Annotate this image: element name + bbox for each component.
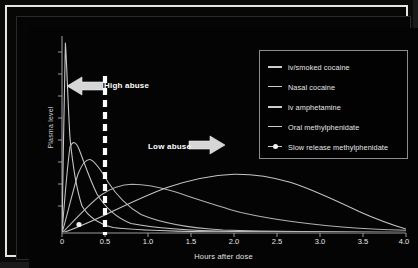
legend-item-label: Oral methylphenidate: [288, 123, 359, 132]
figure-outer-frame: 0 0.5 1.0 1.5 2.0 2.5 3.0 3.5 4.0 Plasma…: [5, 5, 408, 257]
x-tick-label-3-5: 3.5: [353, 237, 373, 246]
y-axis-ticks: [58, 52, 62, 206]
x-tick-label-4-0: 4.0: [394, 237, 414, 246]
y-axis-label: Plasma level: [47, 93, 54, 163]
slow-release-marker-dot: [76, 222, 81, 227]
legend-line-icon: [268, 62, 282, 72]
chart-legend: iv/smoked cocaine Nasal cocaine iv amphe…: [259, 50, 408, 159]
low-abuse-arrow: [189, 136, 225, 154]
legend-line-icon: [268, 102, 282, 112]
high-abuse-annotation: High abuse: [104, 81, 149, 90]
legend-item-oral-methylphenidate: Oral methylphenidate: [260, 117, 407, 137]
figure-inner-bevel: 0 0.5 1.0 1.5 2.0 2.5 3.0 3.5 4.0 Plasma…: [16, 16, 411, 260]
curve-oral-methylphenidate: [62, 184, 406, 233]
x-axis-label: Hours after dose: [29, 252, 418, 261]
legend-item-label: Nasal cocaine: [288, 83, 335, 92]
x-tick-label-2-0: 2.0: [224, 237, 244, 246]
x-tick-label-2-5: 2.5: [267, 237, 287, 246]
curve-iv-amphetamine: [62, 159, 406, 233]
legend-item-iv-amphetamine: iv amphetamine: [260, 97, 407, 117]
legend-item-slow-release-methylphenidate: Slow release methylphenidate: [260, 137, 407, 157]
legend-item-nasal-cocaine: Nasal cocaine: [260, 77, 407, 97]
x-tick-label-0-5: 0.5: [95, 237, 115, 246]
legend-line-icon: [268, 82, 282, 92]
low-abuse-annotation: Low abuse: [148, 142, 191, 151]
x-tick-label-1-0: 1.0: [138, 237, 158, 246]
chart-figure: 0 0.5 1.0 1.5 2.0 2.5 3.0 3.5 4.0 Plasma…: [29, 28, 418, 268]
legend-item-label: Slow release methylphenidate: [288, 143, 388, 152]
legend-item-label: iv amphetamine: [288, 103, 341, 112]
legend-item-label: iv/smoked cocaine: [288, 63, 350, 72]
curve-slow-release-methylphenidate: [62, 174, 406, 233]
x-tick-label-0: 0: [52, 237, 72, 246]
legend-line-icon: [268, 122, 282, 132]
legend-item-iv-smoked-cocaine: iv/smoked cocaine: [260, 57, 407, 77]
x-tick-label-1-5: 1.5: [181, 237, 201, 246]
legend-line-dot-icon: [268, 142, 282, 152]
high-abuse-arrow: [67, 77, 103, 95]
x-tick-label-3-0: 3.0: [310, 237, 330, 246]
